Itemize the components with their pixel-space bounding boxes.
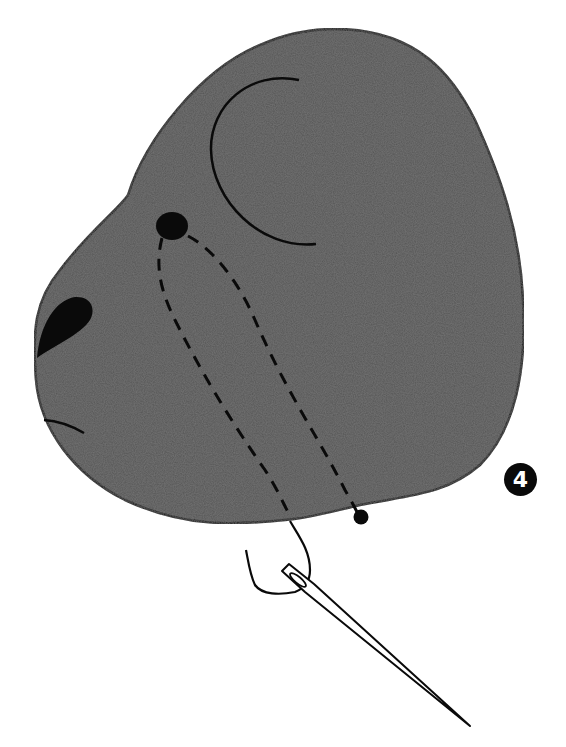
sewing-illustration (0, 0, 566, 747)
eye-bead (156, 212, 188, 240)
thread-knot (354, 510, 369, 525)
step-number-badge: 4 (504, 463, 537, 496)
head-fabric-piece (35, 29, 524, 523)
sewing-needle (282, 564, 470, 726)
